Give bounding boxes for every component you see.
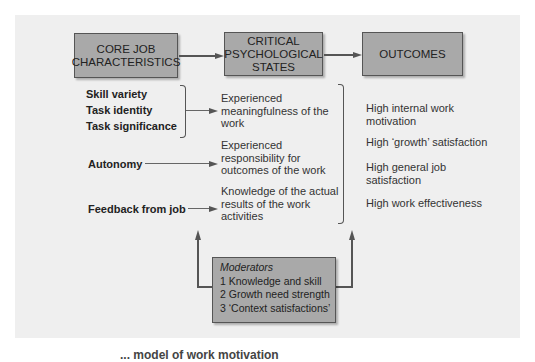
core-job-characteristics-label: CORE JOB CHARACTERISTICS [72, 43, 181, 69]
core-job-characteristics-box: CORE JOB CHARACTERISTICS [74, 33, 178, 78]
moderators-box: Moderators 1 Knowledge and skill 2 Growt… [212, 257, 336, 323]
critical-psychological-states-label: CRITICAL PSYCHOLOGICAL STATES [224, 35, 322, 74]
state-knowledge-of-results: Knowledge of the actual results of the w… [221, 185, 338, 223]
state-responsibility: Experienced responsibility for outcomes … [221, 139, 326, 177]
arrow-up-icon [195, 230, 201, 240]
arrow-skills-to-meaningfulness-line [186, 110, 210, 111]
outcome-work-effectiveness: High work effectiveness [366, 197, 482, 210]
arrow-right-icon [209, 161, 218, 167]
critical-psychological-states-box: CRITICAL PSYCHOLOGICAL STATES [224, 32, 323, 76]
moderator-right-connector [336, 286, 353, 288]
characteristic-autonomy: Autonomy [88, 158, 142, 170]
arrow-up-icon [349, 230, 355, 240]
moderator-left-arrow-line [197, 238, 199, 288]
characteristic-feedback-from-job: Feedback from job [88, 203, 186, 215]
arrow-autonomy-to-responsibility-line [145, 163, 210, 164]
arrow-right-icon [353, 52, 362, 58]
moderator-item: 3 ‘Context satisfactions’ [220, 302, 335, 316]
moderator-left-connector [197, 286, 213, 288]
arrow-critical-to-outcomes-line [324, 54, 354, 56]
figure-caption: ... model of work motivation [120, 348, 279, 362]
characteristic-task-identity: Task identity [86, 104, 152, 116]
characteristics-bracket [180, 85, 186, 138]
arrow-core-to-critical-line [179, 55, 216, 57]
moderator-right-arrow-line [351, 238, 353, 288]
outcome-general-satisfaction: High general job satisfaction [366, 161, 446, 186]
moderator-item: 2 Growth need strength [220, 288, 335, 302]
arrow-right-icon [215, 53, 224, 59]
moderator-item: 1 Knowledge and skill [220, 275, 335, 289]
state-meaningfulness: Experienced meaningfulness of the work [221, 92, 329, 130]
outcomes-box: OUTCOMES [362, 32, 463, 76]
outcome-growth-satisfaction: High ‘growth’ satisfaction [366, 136, 487, 149]
characteristic-task-significance: Task significance [86, 120, 177, 132]
moderators-title: Moderators [220, 261, 335, 275]
states-bracket [338, 84, 344, 224]
outcomes-label: OUTCOMES [379, 48, 445, 61]
characteristic-skill-variety: Skill variety [86, 88, 147, 100]
arrow-feedback-to-knowledge-line [188, 208, 210, 209]
arrow-right-icon [209, 206, 218, 212]
arrow-right-icon [209, 108, 218, 114]
outcome-internal-motivation: High internal work motivation [366, 102, 454, 127]
